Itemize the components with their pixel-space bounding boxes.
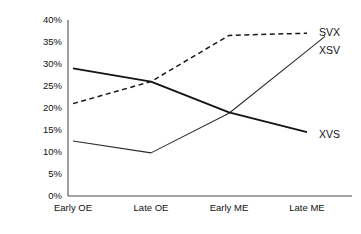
line-chart: 40% 35% 30% 25% 20% 15% 10% 5% 0% Early … — [0, 0, 361, 234]
series-line-xvs — [73, 68, 307, 132]
y-tick-label-0: 0% — [24, 190, 62, 201]
y-tick-label-10: 10% — [24, 146, 62, 157]
y-tick-label-25: 25% — [24, 80, 62, 91]
y-tick-label-5: 5% — [24, 168, 62, 179]
series-line-svx — [73, 33, 307, 103]
y-tick-label-40: 40% — [24, 14, 62, 25]
y-tick-label-35: 35% — [24, 36, 62, 47]
y-tick-label-20: 20% — [24, 102, 62, 113]
series-label-xsv: XSV — [319, 44, 340, 56]
x-tick-label-early-me: Early ME — [196, 202, 262, 213]
x-tick-label-early-oe: Early OE — [40, 202, 106, 213]
x-tick-label-late-me: Late ME — [274, 202, 340, 213]
y-tick-label-15: 15% — [24, 124, 62, 135]
y-tick-label-30: 30% — [24, 58, 62, 69]
series-label-svx: SVX — [319, 26, 340, 38]
series-label-xvs: XVS — [319, 128, 340, 140]
x-tick-label-late-oe: Late OE — [118, 202, 184, 213]
